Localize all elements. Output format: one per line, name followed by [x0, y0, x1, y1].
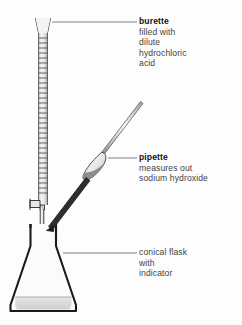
- label-burette-line-2: dilute: [139, 37, 187, 48]
- label-burette: burette filled with dilute hydrochloric …: [139, 16, 187, 69]
- label-pipette: pipette measures out sodium hydroxide: [139, 152, 208, 184]
- label-flask-line-2: indicator: [139, 268, 187, 279]
- label-pipette-line-1: measures out: [139, 163, 208, 174]
- flask-indicator-liquid: [15, 297, 71, 310]
- label-pipette-title: pipette: [139, 152, 208, 163]
- titration-diagram: burette filled with dilute hydrochloric …: [0, 0, 242, 325]
- label-flask-line-1: with: [139, 258, 187, 269]
- pipette-upper-stem: [102, 102, 144, 155]
- label-burette-line-4: acid: [139, 58, 187, 69]
- label-conical-flask: conical flask with indicator: [139, 247, 187, 279]
- burette-left-wall: [36, 18, 39, 205]
- pipette-lower-stem: [49, 178, 91, 230]
- label-burette-title: burette: [139, 16, 187, 27]
- leader-lines: [52, 22, 137, 253]
- label-burette-line-3: hydrochloric: [139, 48, 187, 59]
- conical-flask-group: [11, 224, 77, 311]
- label-pipette-line-2: sodium hydroxide: [139, 173, 208, 184]
- label-burette-line-1: filled with: [139, 27, 187, 38]
- burette-barrel-fill: [39, 33, 48, 205]
- label-flask-title: conical flask: [139, 247, 187, 258]
- pipette-group: [47, 102, 144, 232]
- burette-right-wall: [47, 18, 50, 205]
